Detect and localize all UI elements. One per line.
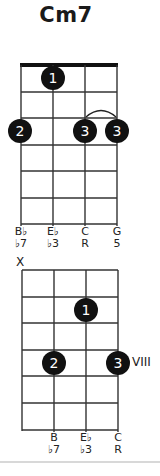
finger-dot-1: 1 (74, 298, 98, 322)
string-label-4: C R (108, 432, 128, 456)
finger-dot-3: 3 (106, 351, 130, 375)
interval-name: ♭7 (44, 444, 64, 456)
string-label-3: E♭ ♭3 (76, 432, 96, 456)
interval-name: ♭3 (76, 444, 96, 456)
svg-text:2: 2 (50, 355, 59, 371)
interval-name: R (108, 444, 128, 456)
finger-dot-2: 2 (42, 351, 66, 375)
svg-text:3: 3 (114, 355, 123, 371)
fret-position-label: VIII (132, 355, 151, 369)
fretboard-grid: 1 2 3 (0, 0, 160, 476)
string-label-2: B ♭7 (44, 432, 64, 456)
divider-line (0, 461, 160, 463)
svg-text:1: 1 (82, 302, 91, 318)
